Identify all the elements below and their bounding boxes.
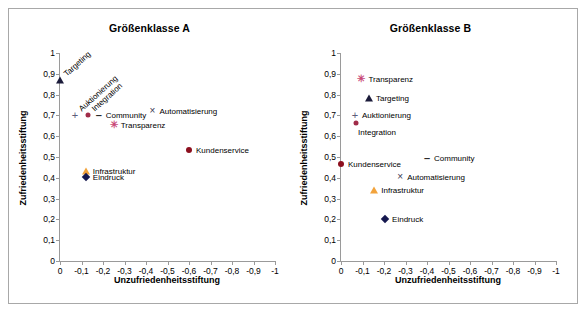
data-point-label: Automatisierung: [159, 107, 217, 116]
y-axis-tick-label: 0,5: [43, 152, 55, 162]
x-axis-title-a: Unzufriedenheitsstiftung: [59, 275, 275, 285]
y-axis-tick: [337, 74, 341, 75]
y-axis-tick: [337, 115, 341, 116]
data-point-marker: ×: [147, 106, 157, 116]
data-point-label: Targeting: [376, 93, 409, 102]
x-axis-tick: [556, 261, 557, 265]
y-axis-tick-label: 1: [50, 48, 55, 58]
y-axis-tick-label: 0,3: [43, 194, 55, 204]
data-point-marker: [365, 94, 373, 101]
y-axis-tick: [337, 178, 341, 179]
data-point-marker: [381, 215, 389, 223]
x-axis-tick: [146, 261, 147, 265]
data-point-label: Transparenz: [121, 120, 166, 129]
x-axis-tick: [427, 261, 428, 265]
y-axis-tick-label: 0,8: [43, 90, 55, 100]
y-axis-tick: [56, 178, 60, 179]
y-axis-tick-label: 0,5: [324, 152, 336, 162]
y-axis-tick: [56, 53, 60, 54]
x-axis-tick: [189, 261, 190, 265]
data-point-marker: [338, 161, 344, 167]
y-axis-tick-label: 0,7: [43, 110, 55, 120]
data-point-marker: [85, 113, 90, 118]
y-axis-title-a: Zufriedenheitsstiftung: [15, 53, 29, 262]
y-axis-tick-label: 0,4: [324, 173, 336, 183]
x-axis-tick: [125, 261, 126, 265]
y-axis-tick: [337, 199, 341, 200]
data-point-label: Kundenservice: [196, 145, 249, 154]
x-axis-tick: [449, 261, 450, 265]
y-axis-tick-label: 0,9: [43, 69, 55, 79]
data-point-marker: [82, 167, 90, 174]
data-point-label: Auktionierung: [362, 111, 411, 120]
data-point-marker: [82, 173, 90, 181]
data-point-marker: [370, 187, 378, 194]
x-axis-title-b: Unzufriedenheitsstiftung: [340, 275, 556, 285]
y-axis-tick-label: 0: [331, 256, 336, 266]
y-axis-tick-label: 0,2: [43, 214, 55, 224]
chart-panel-b: Größenklasse B Zufriedenheitsstiftung 10…: [290, 10, 571, 290]
x-axis-tick: [82, 261, 83, 265]
chart-title-a: Größenklasse A: [9, 22, 290, 34]
y-axis-tick: [337, 157, 341, 158]
data-point-label: Community: [106, 111, 146, 120]
y-axis-tick: [56, 74, 60, 75]
data-point-marker: ✳: [356, 74, 366, 84]
y-axis-tick-label: 0,1: [324, 235, 336, 245]
y-axis-tick: [56, 157, 60, 158]
y-axis-tick-label: 0,6: [43, 131, 55, 141]
data-point-marker: ×: [395, 172, 405, 182]
data-point-label: Community: [434, 154, 474, 163]
y-axis-tick: [337, 53, 341, 54]
y-axis-tick: [56, 240, 60, 241]
plot-area-b: 10,90,80,70,60,50,40,30,20,100-0,1-0,2-0…: [340, 53, 556, 262]
data-point-label: Integration: [358, 127, 396, 136]
y-axis-title-a-text: Zufriedenheitsstiftung: [17, 110, 27, 205]
x-axis-tick: [492, 261, 493, 265]
x-axis-tick: [513, 261, 514, 265]
y-axis-tick-label: 0,2: [324, 214, 336, 224]
y-axis-tick-label: 1: [331, 48, 336, 58]
x-axis-tick: [535, 261, 536, 265]
data-point-marker: +: [350, 110, 360, 120]
data-point-label: Eindruck: [392, 215, 423, 224]
y-axis-tick-label: 0,4: [43, 173, 55, 183]
data-point-label: Transparenz: [368, 75, 413, 84]
x-axis-tick: [341, 261, 342, 265]
y-axis-tick-label: 0,7: [324, 110, 336, 120]
y-axis-tick: [337, 240, 341, 241]
chart-title-b: Größenklasse B: [290, 22, 571, 34]
y-axis-tick: [56, 136, 60, 137]
chart-panel-a: Größenklasse A Zufriedenheitsstiftung 10…: [9, 10, 290, 290]
x-axis-tick: [384, 261, 385, 265]
plot-area-a: 10,90,80,70,60,50,40,30,20,100-0,1-0,2-0…: [59, 53, 275, 262]
y-axis-tick: [337, 219, 341, 220]
data-point-label: Automatisierung: [407, 172, 465, 181]
x-axis-tick: [470, 261, 471, 265]
x-axis-tick: [406, 261, 407, 265]
y-axis-tick-label: 0,9: [324, 69, 336, 79]
x-axis-tick: [363, 261, 364, 265]
y-axis-title-b: Zufriedenheitsstiftung: [296, 53, 310, 262]
data-point-label: Kundenservice: [348, 160, 401, 169]
y-axis-tick: [56, 199, 60, 200]
data-point-marker: ✳: [109, 120, 119, 130]
data-point-marker: [354, 120, 359, 125]
x-axis-tick: [275, 261, 276, 265]
y-axis-tick-label: 0: [50, 256, 55, 266]
data-point-marker: [56, 77, 64, 84]
y-axis-tick: [56, 219, 60, 220]
y-axis-tick: [337, 136, 341, 137]
y-axis-tick-label: 0,8: [324, 90, 336, 100]
data-point-label: Targeting: [62, 50, 92, 79]
y-axis-tick-label: 0,3: [324, 194, 336, 204]
x-axis-tick: [60, 261, 61, 265]
x-axis-tick: [232, 261, 233, 265]
data-point-marker: +: [70, 110, 80, 120]
x-axis-tick: [211, 261, 212, 265]
x-axis-tick: [103, 261, 104, 265]
y-axis-tick-label: 0,1: [43, 235, 55, 245]
y-axis-title-b-text: Zufriedenheitsstiftung: [298, 110, 308, 205]
y-axis-tick-label: 0,6: [324, 131, 336, 141]
data-point-label: Infrastruktur: [381, 186, 424, 195]
